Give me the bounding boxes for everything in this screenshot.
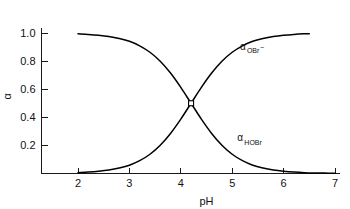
y-tick-label: 0.6 (20, 83, 35, 95)
x-tick-label: 6 (281, 177, 287, 189)
x-tick-label: 3 (126, 177, 132, 189)
y-tick-label: 1.0 (20, 27, 35, 39)
curve-label-obr-alpha: α (240, 41, 246, 52)
y-tick-label: 0.8 (20, 55, 35, 67)
chart-canvas: 234567 0.20.40.60.81.0 pH α α OBr − α HO… (0, 0, 350, 209)
curve-label-hobr-alpha: α (237, 132, 243, 143)
x-tick-label: 2 (75, 177, 81, 189)
crossing-point-marker (189, 101, 194, 106)
y-tick-label: 0.2 (20, 139, 35, 151)
x-tick-label: 7 (332, 177, 338, 189)
y-axis-title: α (1, 92, 13, 99)
alpha-fraction-chart: 234567 0.20.40.60.81.0 pH α α OBr − α HO… (0, 0, 350, 209)
x-axis-title: pH (199, 195, 213, 207)
y-tick-label: 0.4 (20, 111, 35, 123)
x-tick-label: 5 (229, 177, 235, 189)
curve-label-obr-subscript: OBr (247, 47, 260, 54)
chart-background (0, 0, 350, 209)
curve-label-obr-superscript: − (260, 44, 264, 51)
curve-label-hobr-subscript: HOBr (244, 139, 262, 146)
x-tick-label: 4 (178, 177, 184, 189)
